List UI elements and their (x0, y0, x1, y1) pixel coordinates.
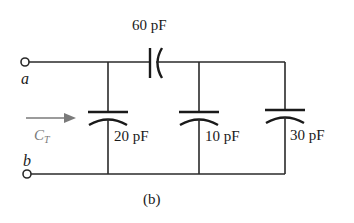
capacitor-30pf-branch (265, 62, 305, 174)
circuit-schematic (0, 0, 354, 223)
equivalent-capacitance-label: CT (34, 128, 50, 145)
series-capacitor-label: 60 pF (132, 18, 167, 33)
capacitor-20pf-branch (88, 62, 128, 174)
terminal-a-node (21, 58, 29, 66)
terminal-b-node (23, 170, 31, 178)
capacitor-10pf-branch (179, 62, 219, 174)
terminal-b-label: b (23, 153, 31, 169)
figure-caption: (b) (143, 192, 161, 207)
terminal-a-label: a (21, 71, 29, 87)
capacitor-10pf-label: 10 pF (205, 129, 240, 144)
capacitor-60pf-symbol (150, 48, 162, 78)
ct-subscript: T (44, 134, 50, 145)
capacitor-30pf-label: 30 pF (290, 128, 325, 143)
capacitor-20pf-label: 20 pF (114, 129, 149, 144)
equivalent-capacitance-arrow-icon (26, 113, 76, 123)
ct-symbol: C (34, 127, 44, 143)
